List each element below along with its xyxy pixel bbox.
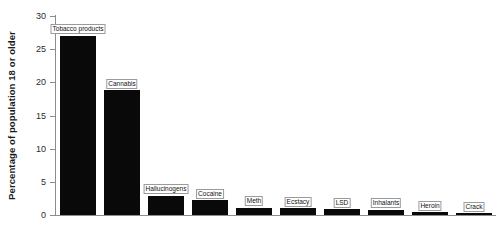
x-axis-line	[55, 215, 496, 216]
y-axis-title: Percentage of population 18 or older	[0, 0, 22, 231]
bar-label: Heroin	[418, 201, 441, 211]
bar[interactable]	[236, 208, 272, 215]
bar-label: Ecstacy	[285, 197, 312, 207]
bar-chart: Percentage of population 18 or older 051…	[0, 0, 503, 231]
bar[interactable]	[456, 213, 492, 215]
bar-label: Crack	[464, 202, 485, 212]
bar[interactable]	[412, 212, 448, 215]
y-tick-mark	[50, 182, 55, 183]
bar[interactable]	[104, 90, 140, 215]
bar[interactable]	[280, 208, 316, 215]
bar[interactable]	[368, 210, 404, 215]
y-tick-mark	[50, 49, 55, 50]
y-tick-label: 10	[24, 144, 46, 154]
bar[interactable]	[60, 36, 96, 215]
y-tick-label: 30	[24, 11, 46, 21]
y-tick-mark	[50, 82, 55, 83]
y-tick-label: 5	[24, 177, 46, 187]
bar-label: Cannabis	[106, 79, 137, 89]
y-tick-label: 15	[24, 111, 46, 121]
y-tick-label: 0	[24, 210, 46, 220]
bar-label: LSD	[334, 198, 351, 208]
bar[interactable]	[148, 196, 184, 215]
y-tick-label: 25	[24, 44, 46, 54]
bar-label: Inhalants	[371, 198, 401, 208]
y-tick-label: 20	[24, 77, 46, 87]
plot-area: Tobacco productsCannabisHallucinogensCoc…	[56, 16, 496, 215]
y-tick-mark	[50, 116, 55, 117]
y-tick-mark	[50, 149, 55, 150]
bar-label: Tobacco products	[51, 24, 106, 34]
y-tick-mark	[50, 16, 55, 17]
bar-label: Cocaine	[196, 189, 224, 199]
bar-label: Hallucinogens	[144, 184, 189, 194]
bar[interactable]	[192, 200, 228, 215]
bar[interactable]	[324, 209, 360, 215]
y-tick-mark	[50, 215, 55, 216]
bar-label: Meth	[245, 196, 263, 206]
